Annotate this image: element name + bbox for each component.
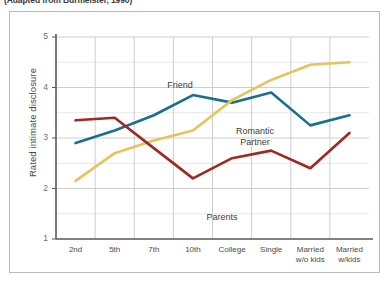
series-label-parents: Parents	[192, 212, 252, 223]
grid-lines	[56, 37, 369, 239]
chart-frame: Rated intimate disclosure 12345 2nd5th7t…	[9, 11, 380, 273]
figure-container: (Adapted from Burmeister, 1990) Rated in…	[0, 0, 390, 281]
series-label-romantic-partner: RomanticPartner	[225, 126, 285, 147]
series-label-friend: Friend	[150, 80, 210, 91]
source-citation: (Adapted from Burmeister, 1990)	[4, 0, 132, 5]
line-plot	[10, 12, 379, 272]
